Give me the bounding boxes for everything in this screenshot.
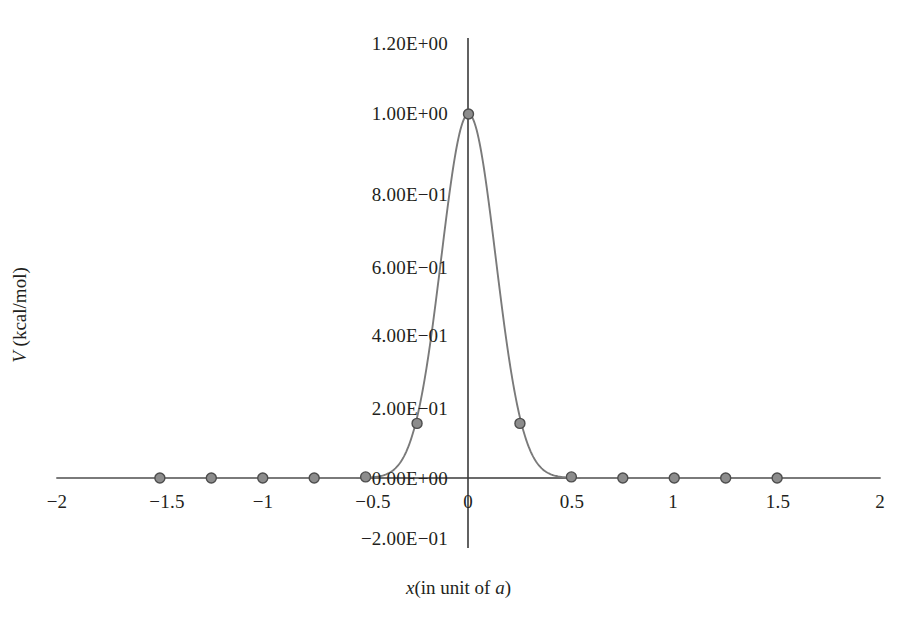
y-axis-title-symbol: V: [9, 351, 30, 363]
data-point-marker: [412, 418, 422, 428]
x-axis-title-close: ): [505, 577, 511, 598]
xtick-label-0: 0: [438, 492, 498, 511]
y-axis-title: V (kcal/mol): [0, 0, 40, 629]
x-axis-title-text: (in unit of: [414, 577, 495, 598]
data-point-marker: [721, 473, 731, 483]
xtick-label-1: 1: [643, 492, 703, 511]
ytick-label-1.00E+00: 1.00E+00: [258, 104, 448, 123]
ytick-label-4.00E-01: 4.00E−01: [258, 326, 448, 345]
data-point-marker: [155, 473, 165, 483]
data-point-marker: [669, 473, 679, 483]
chart-figure: 1.20E+00 1.00E+00 8.00E−01 6.00E−01 4.00…: [0, 0, 917, 629]
xtick-label--1.5: −1.5: [132, 492, 202, 511]
plot-canvas: [0, 0, 917, 629]
xtick-label-1.5: 1.5: [743, 492, 813, 511]
xtick-label--0.5: −0.5: [338, 492, 408, 511]
ytick-label-1.20E+00: 1.20E+00: [258, 34, 448, 53]
data-point-marker: [772, 473, 782, 483]
ytick-label--2.00E-01: −2.00E−01: [248, 529, 448, 548]
data-point-marker: [206, 473, 216, 483]
x-axis-title: x(in unit of a): [0, 577, 917, 599]
ytick-label-8.00E-01: 8.00E−01: [258, 185, 448, 204]
xtick-label-0.5: 0.5: [537, 492, 607, 511]
data-point-marker: [464, 109, 474, 119]
data-point-marker: [566, 472, 576, 482]
xtick-label-2: 2: [850, 492, 910, 511]
ytick-label-2.00E-01: 2.00E−01: [258, 399, 448, 418]
xtick-label--1: −1: [233, 492, 293, 511]
x-axis-title-unit-symbol: a: [495, 577, 505, 598]
data-point-marker: [515, 418, 525, 428]
y-axis-title-units: (kcal/mol): [9, 267, 30, 351]
data-point-marker: [618, 473, 628, 483]
ytick-label-0.00E+00: 0.00E+00: [258, 469, 448, 488]
ytick-label-6.00E-01: 6.00E−01: [258, 258, 448, 277]
